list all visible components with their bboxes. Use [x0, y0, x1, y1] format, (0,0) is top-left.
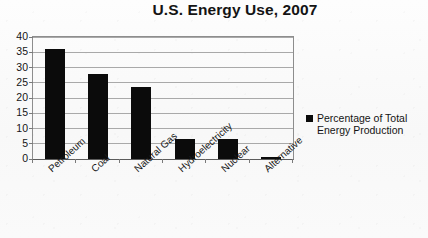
x-axis-tick-label: Nuclear	[219, 143, 252, 174]
x-axis-tick-label: Alternative	[262, 134, 304, 174]
chart-page: U.S. Energy Use, 2007 4035302520151050 P…	[0, 0, 428, 238]
chart-legend: Percentage of Total Energy Production	[306, 112, 426, 136]
legend-swatch-icon	[306, 115, 313, 122]
x-axis-tick-label: Petroleum	[46, 136, 87, 175]
legend-entry-label: Percentage of Total Energy Production	[317, 112, 421, 136]
x-axis-tick-label: Natural Gas	[132, 130, 179, 174]
x-axis-tick-label: Coal	[89, 152, 112, 174]
